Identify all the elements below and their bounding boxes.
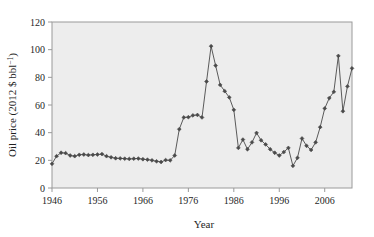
y-tick-label: 100 — [30, 44, 45, 55]
y-tick-label: 80 — [35, 72, 45, 83]
plot-area-background — [52, 22, 352, 188]
y-tick-label: 40 — [35, 127, 45, 138]
x-tick-label: 1996 — [269, 195, 289, 206]
y-axis-tick-labels: 020406080100120 — [30, 17, 45, 194]
x-axis-tick-labels: 1946195619661976198619962006 — [42, 195, 335, 206]
y-axis-title: Oil price (2012 $ bbl−1) — [6, 53, 19, 157]
y-tick-label: 120 — [30, 17, 45, 28]
oil-price-chart-figure: 020406080100120 194619561966197619861996… — [0, 0, 374, 237]
x-tick-label: 1966 — [133, 195, 153, 206]
x-tick-label: 1976 — [178, 195, 198, 206]
x-tick-label: 2006 — [315, 195, 335, 206]
y-tick-label: 20 — [35, 155, 45, 166]
x-tick-label: 1956 — [87, 195, 107, 206]
x-axis-title: Year — [194, 218, 215, 230]
y-tick-label: 60 — [35, 100, 45, 111]
x-tick-label: 1946 — [42, 195, 62, 206]
x-axis-ticks — [52, 188, 325, 192]
y-tick-label: 0 — [40, 183, 45, 194]
x-tick-label: 1986 — [224, 195, 244, 206]
chart-canvas: 020406080100120 194619561966197619861996… — [0, 0, 374, 237]
